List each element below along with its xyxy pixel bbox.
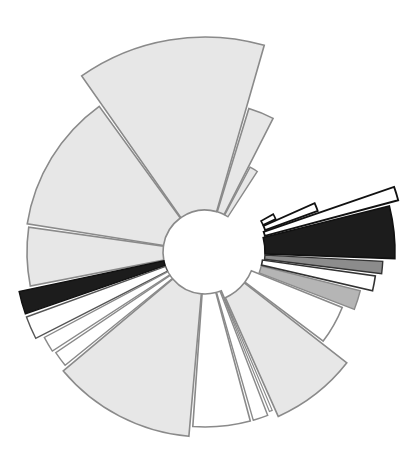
radial-wedge-chart — [0, 0, 410, 471]
rose-chart-container — [0, 0, 410, 471]
